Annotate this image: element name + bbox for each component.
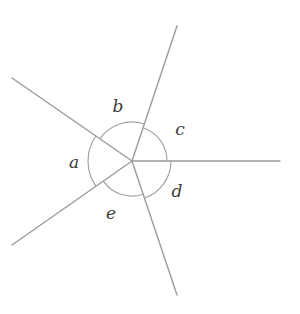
angle-arc-e <box>103 181 143 196</box>
angle-label-c: c <box>175 119 185 139</box>
ray-bottom <box>132 161 177 295</box>
angle-arc-a <box>88 136 96 186</box>
angle-arc-c <box>143 128 167 161</box>
ray-top <box>132 26 177 161</box>
angles-diagram: a b c d e <box>0 0 300 314</box>
angle-label-a: a <box>69 152 79 172</box>
angle-label-e: e <box>106 203 116 223</box>
angle-label-d: d <box>172 181 183 201</box>
ray-upper-left <box>12 78 132 161</box>
angle-arc-d <box>144 161 171 198</box>
angle-arc-b <box>100 122 144 139</box>
angle-label-b: b <box>113 96 124 116</box>
